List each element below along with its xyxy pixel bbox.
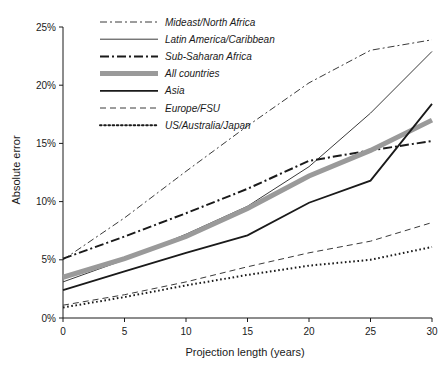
y-tick-labels: 0%5%10%15%20%25%: [36, 22, 56, 324]
legend-item-label: Asia: [164, 85, 185, 96]
series-line: [63, 247, 432, 308]
y-tick-label: 25%: [36, 22, 56, 33]
y-tick-label: 15%: [36, 138, 56, 149]
x-tick-label: 25: [365, 326, 377, 337]
legend-item-label: Mideast/North Africa: [165, 17, 256, 28]
y-axis-title: Absolute error: [10, 135, 22, 204]
line-chart: 051015202530 0%5%10%15%20%25% Projection…: [0, 0, 446, 368]
x-tick-label: 15: [242, 326, 254, 337]
y-tick-label: 10%: [36, 196, 56, 207]
series-line: [63, 51, 432, 281]
chart-figure: 051015202530 0%5%10%15%20%25% Projection…: [0, 0, 446, 368]
x-tick-label: 30: [426, 326, 438, 337]
y-tick-label: 0%: [42, 313, 57, 324]
x-tick-label: 20: [303, 326, 315, 337]
series-line: [63, 141, 432, 259]
data-series-group: [63, 40, 432, 308]
x-tick-label: 5: [122, 326, 128, 337]
x-tick-label: 0: [60, 326, 66, 337]
legend-item-label: Europe/FSU: [165, 103, 221, 114]
x-tick-labels: 051015202530: [60, 326, 438, 337]
legend-item-label: Latin America/Caribbean: [165, 34, 275, 45]
legend: Mideast/North AfricaLatin America/Caribb…: [100, 17, 275, 131]
y-tick-label: 5%: [42, 254, 57, 265]
series-line: [63, 120, 432, 277]
legend-item-label: Sub-Saharan Africa: [165, 51, 252, 62]
legend-item-label: All countries: [164, 68, 219, 79]
y-tick-label: 20%: [36, 80, 56, 91]
x-tick-label: 10: [180, 326, 192, 337]
legend-item-label: US/Australia/Japan: [165, 120, 251, 131]
x-axis-title: Projection length (years): [185, 346, 304, 358]
